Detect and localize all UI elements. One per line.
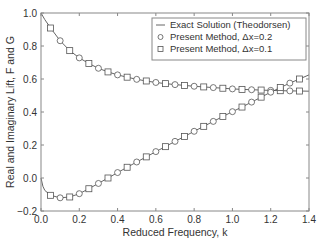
square-marker <box>201 84 207 90</box>
square-marker <box>258 94 264 100</box>
circle-marker <box>287 88 293 94</box>
square-marker <box>105 69 111 75</box>
x-tick-label: 1.4 <box>302 214 316 225</box>
circle-marker <box>76 191 82 197</box>
circle-marker <box>153 79 159 85</box>
circle-marker <box>191 83 197 89</box>
circle-marker <box>249 99 255 105</box>
circle-marker <box>191 128 197 134</box>
square-marker <box>48 25 54 31</box>
circle-marker <box>229 86 235 92</box>
chart: 0.00.20.40.60.81.01.21.4−0.20.00.20.40.6… <box>0 0 323 247</box>
circle-marker <box>210 118 216 124</box>
circle-marker <box>95 65 101 71</box>
square-marker <box>296 88 302 94</box>
square-marker <box>86 186 92 192</box>
square-marker <box>67 194 73 200</box>
circle-marker <box>115 170 121 176</box>
y-tick-label: 0.0 <box>23 173 37 184</box>
square-marker <box>162 144 168 150</box>
y-tick-label: −0.2 <box>17 206 37 217</box>
x-tick-label: 0.8 <box>187 214 201 225</box>
circle-marker <box>134 159 140 165</box>
circle-marker <box>229 109 235 115</box>
square-marker <box>67 48 73 54</box>
square-marker <box>124 74 130 80</box>
legend-entry-label: Present Method, Δx=0.2 <box>170 31 272 42</box>
y-tick-label: 0.4 <box>23 107 37 118</box>
legend-circle-icon <box>158 35 163 40</box>
square-marker <box>182 133 188 139</box>
x-axis-label: Reduced Frequency, k <box>123 226 229 238</box>
square-marker <box>86 60 92 66</box>
circle-marker <box>268 89 274 95</box>
y-axis-label: Real and Imaginary Lift, F and G <box>4 36 16 188</box>
circle-marker <box>153 149 159 155</box>
circle-marker <box>57 195 63 201</box>
square-marker <box>143 154 149 160</box>
square-marker <box>220 85 226 91</box>
square-marker <box>277 85 283 91</box>
square-marker <box>105 175 111 181</box>
y-tick-label: 1.0 <box>23 8 37 19</box>
x-tick-label: 0.6 <box>149 214 163 225</box>
x-tick-label: 1.0 <box>225 214 239 225</box>
square-marker <box>201 123 207 129</box>
square-marker <box>239 104 245 110</box>
square-marker <box>162 81 168 87</box>
circle-marker <box>172 82 178 88</box>
legend-entry-label: Present Method, Δx=0.1 <box>170 43 272 54</box>
square-marker <box>124 164 130 170</box>
circle-marker <box>115 72 121 78</box>
legend: Exact Solution (Theodorsen)Present Metho… <box>152 18 306 60</box>
circle-marker <box>287 80 293 86</box>
circle-marker <box>57 38 63 44</box>
circle-marker <box>210 85 216 91</box>
y-tick-label: 0.8 <box>23 41 37 52</box>
legend-entry-label: Exact Solution (Theodorsen) <box>170 19 290 30</box>
x-tick-label: 0.2 <box>72 214 86 225</box>
y-tick-label: 0.2 <box>23 140 37 151</box>
legend-square-icon <box>158 47 163 52</box>
circle-marker <box>134 76 140 82</box>
square-marker <box>220 113 226 119</box>
circle-marker <box>172 138 178 144</box>
square-marker <box>48 192 54 198</box>
square-marker <box>296 76 302 82</box>
square-marker <box>239 86 245 92</box>
circle-marker <box>76 55 82 61</box>
square-marker <box>143 78 149 84</box>
x-tick-label: 1.2 <box>264 214 278 225</box>
circle-marker <box>249 87 255 93</box>
square-marker <box>182 82 188 88</box>
circle-marker <box>95 180 101 186</box>
square-marker <box>258 87 264 93</box>
y-tick-label: 0.6 <box>23 74 37 85</box>
x-tick-label: 0.4 <box>111 214 125 225</box>
